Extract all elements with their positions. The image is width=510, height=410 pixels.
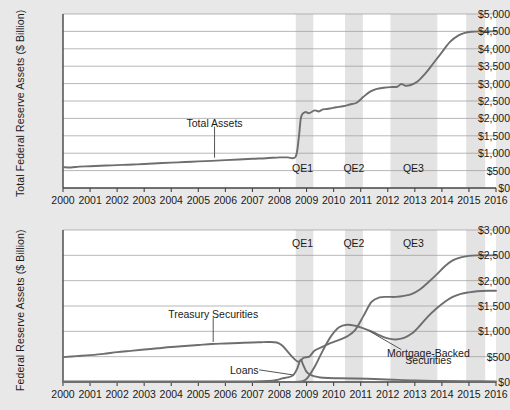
x-axis-tick-label: 2007 bbox=[241, 388, 264, 400]
top-chart-plot bbox=[0, 0, 510, 205]
x-axis-tick-label: 2004 bbox=[160, 388, 183, 400]
dual-line-chart-figure: Total Federal Reserve Assets ($ Billion)… bbox=[0, 0, 510, 410]
x-axis-tick-label: 2013 bbox=[403, 388, 426, 400]
series-annotation-label: Treasury Securities bbox=[168, 308, 258, 320]
x-axis-tick-label: 2016 bbox=[484, 388, 507, 400]
x-axis-tick-label: 2003 bbox=[133, 388, 156, 400]
x-axis-tick-label: 2015 bbox=[457, 388, 480, 400]
qe-band-label-qe2: QE2 bbox=[343, 237, 364, 249]
qe-band-label-qe3: QE3 bbox=[403, 162, 424, 174]
y-axis-tick-label: $500 bbox=[453, 165, 510, 177]
y-axis-tick-label: $4,000 bbox=[453, 43, 510, 55]
qe-band-label-qe3: QE3 bbox=[403, 237, 424, 249]
y-axis-tick-label: $1,000 bbox=[453, 147, 510, 159]
y-axis-tick-label: $2,500 bbox=[453, 249, 510, 261]
x-axis-tick-label: 2009 bbox=[295, 388, 318, 400]
x-axis-tick-label: 2005 bbox=[187, 388, 210, 400]
y-axis-tick-label: $4,500 bbox=[453, 25, 510, 37]
x-axis-tick-label: 2002 bbox=[105, 388, 128, 400]
y-axis-tick-label: $0 bbox=[453, 182, 510, 194]
qe-band-label-qe1: QE1 bbox=[292, 162, 313, 174]
y-axis-tick-label: $3,500 bbox=[453, 60, 510, 72]
qe-band-label-qe1: QE1 bbox=[292, 237, 313, 249]
bottom-chart-panel: Federal Reserve Assets ($ Billion) $0$50… bbox=[0, 205, 510, 410]
y-axis-tick-label: $2,000 bbox=[453, 112, 510, 124]
x-axis-tick-label: 2000 bbox=[51, 388, 74, 400]
x-axis-tick-label: 2014 bbox=[430, 388, 453, 400]
y-axis-tick-label: $1,000 bbox=[453, 325, 510, 337]
top-chart-panel: Total Federal Reserve Assets ($ Billion)… bbox=[0, 0, 510, 205]
x-axis-tick-label: 2006 bbox=[214, 388, 237, 400]
x-axis-tick-label: 2008 bbox=[268, 388, 291, 400]
y-axis-tick-label: $2,000 bbox=[453, 275, 510, 287]
y-axis-tick-label: $5,000 bbox=[453, 8, 510, 20]
x-axis-tick-label: 2001 bbox=[78, 388, 101, 400]
y-axis-tick-label: $1,500 bbox=[453, 130, 510, 142]
series-annotation-label: Loans bbox=[230, 364, 259, 376]
series-annotation-label: Securities bbox=[405, 354, 451, 366]
y-axis-tick-label: $2,500 bbox=[453, 95, 510, 107]
x-axis-tick-label: 2012 bbox=[376, 388, 399, 400]
y-axis-tick-label: $1,500 bbox=[453, 300, 510, 312]
y-axis-tick-label: $3,000 bbox=[453, 78, 510, 90]
qe-band-label-qe2: QE2 bbox=[343, 162, 364, 174]
x-axis-tick-label: 2010 bbox=[322, 388, 345, 400]
y-axis-tick-label: $0 bbox=[453, 376, 510, 388]
y-axis-tick-label: $3,000 bbox=[453, 224, 510, 236]
series-annotation-label: Total Assets bbox=[187, 117, 243, 129]
x-axis-tick-label: 2011 bbox=[349, 388, 372, 400]
